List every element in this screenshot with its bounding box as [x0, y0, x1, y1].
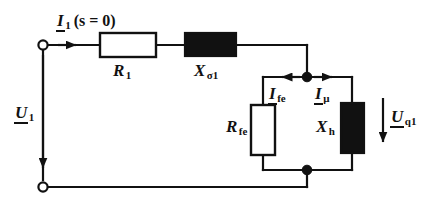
reactance-xh-body: [341, 103, 364, 153]
label-resistor-stator: R1: [112, 62, 131, 81]
label-reactance-leakage-symbol: X: [193, 61, 206, 80]
label-resistor-iron-subscript: fe: [238, 125, 247, 137]
label-current-magnetizing-symbol: I: [314, 84, 323, 105]
label-reactance-leakage-subscript: σ1: [206, 69, 218, 81]
label-reactance-leakage: Xσ1: [193, 62, 218, 81]
junction-top: [302, 72, 312, 82]
label-resistor-stator-symbol: R: [112, 61, 125, 80]
label-voltage-induced: Uq1: [390, 108, 416, 127]
circuit-diagram: I1(s = 0) R1 Xσ1 U1 Ife Iμ Rfe Xh Uq1: [0, 0, 424, 209]
label-resistor-iron: Rfe: [225, 118, 247, 137]
label-voltage-induced-subscript: q1: [404, 115, 416, 127]
label-current-iron-symbol: I: [268, 84, 277, 105]
label-current-magnetizing-subscript: μ: [323, 92, 330, 104]
label-voltage-input: U1: [14, 104, 34, 123]
label-current-input: I1(s = 0): [56, 12, 116, 31]
label-current-iron-subscript: fe: [277, 92, 286, 104]
label-reactance-main-symbol: X: [315, 117, 328, 136]
terminal-bottom-left: [38, 182, 47, 191]
reactance-xsigma1-body: [185, 33, 236, 56]
label-current-iron: Ife: [268, 85, 286, 104]
label-current-input-symbol: I: [56, 11, 65, 32]
label-voltage-input-symbol: U: [14, 103, 28, 124]
label-resistor-iron-symbol: R: [225, 117, 238, 136]
label-reactance-main-subscript: h: [328, 125, 335, 137]
terminal-top-left: [38, 40, 47, 49]
label-current-magnetizing: Iμ: [314, 85, 329, 104]
resistor-rfe-body: [251, 105, 275, 155]
label-current-input-subscript: 1: [65, 19, 71, 31]
junction-bottom: [302, 165, 312, 175]
label-resistor-stator-subscript: 1: [125, 69, 131, 81]
resistor-r1-body: [100, 33, 156, 57]
label-voltage-input-subscript: 1: [28, 111, 34, 123]
label-reactance-main: Xh: [315, 118, 335, 137]
label-voltage-induced-symbol: U: [390, 107, 404, 128]
label-current-input-suffix: (s = 0): [71, 12, 116, 29]
